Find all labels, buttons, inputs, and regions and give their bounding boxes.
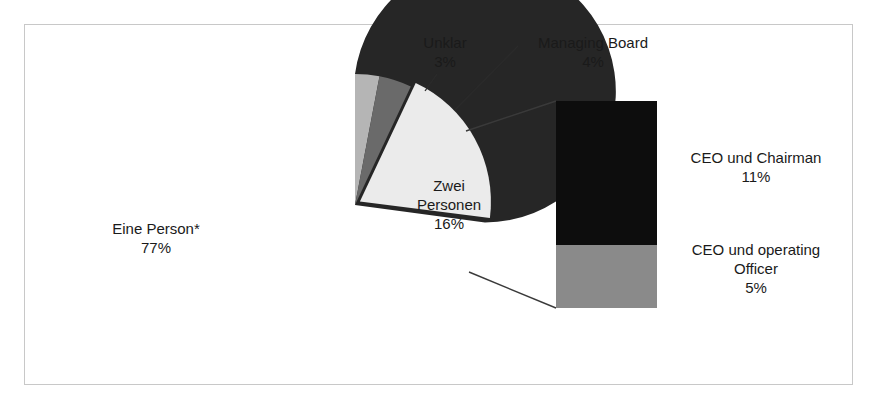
bar-label-ceo-chairman-name: CEO und Chairman [666, 148, 846, 167]
pie-label-managing-board: Managing Board 4% [513, 33, 673, 71]
breakout-bar-segment-ceo-operating-officer [556, 245, 657, 308]
pie-label-unklar-name: Unklar [400, 33, 490, 52]
pie-label-managing-board-value: 4% [513, 52, 673, 71]
pie-label-managing-board-name: Managing Board [513, 33, 673, 52]
bar-label-ceo-operating-officer: CEO und operating Officer 5% [666, 240, 846, 297]
bar-label-ceo-operating-officer-name-line2: Officer [666, 259, 846, 278]
pie-label-eine-person-name: Eine Person* [86, 219, 226, 238]
bar-label-ceo-operating-officer-name-line1: CEO und operating [666, 240, 846, 259]
pie-label-eine-person-value: 77% [86, 238, 226, 257]
pie-label-unklar: Unklar 3% [400, 33, 490, 71]
breakout-connector-bottom [469, 272, 556, 308]
pie-label-zwei-personen-value: 16% [406, 214, 492, 233]
pie-label-zwei-personen: Zwei Personen 16% [406, 176, 492, 233]
breakout-bar-segment-ceo-chairman [556, 101, 657, 245]
bar-label-ceo-chairman: CEO und Chairman 11% [666, 148, 846, 186]
bar-label-ceo-operating-officer-value: 5% [666, 278, 846, 297]
pie-label-eine-person: Eine Person* 77% [86, 219, 226, 257]
pie-label-unklar-value: 3% [400, 52, 490, 71]
chart-page: Eine Person* 77% Unklar 3% Managing Boar… [0, 0, 881, 410]
pie-label-zwei-personen-name-line2: Personen [406, 195, 492, 214]
bar-label-ceo-chairman-value: 11% [666, 167, 846, 186]
pie-label-zwei-personen-name-line1: Zwei [406, 176, 492, 195]
